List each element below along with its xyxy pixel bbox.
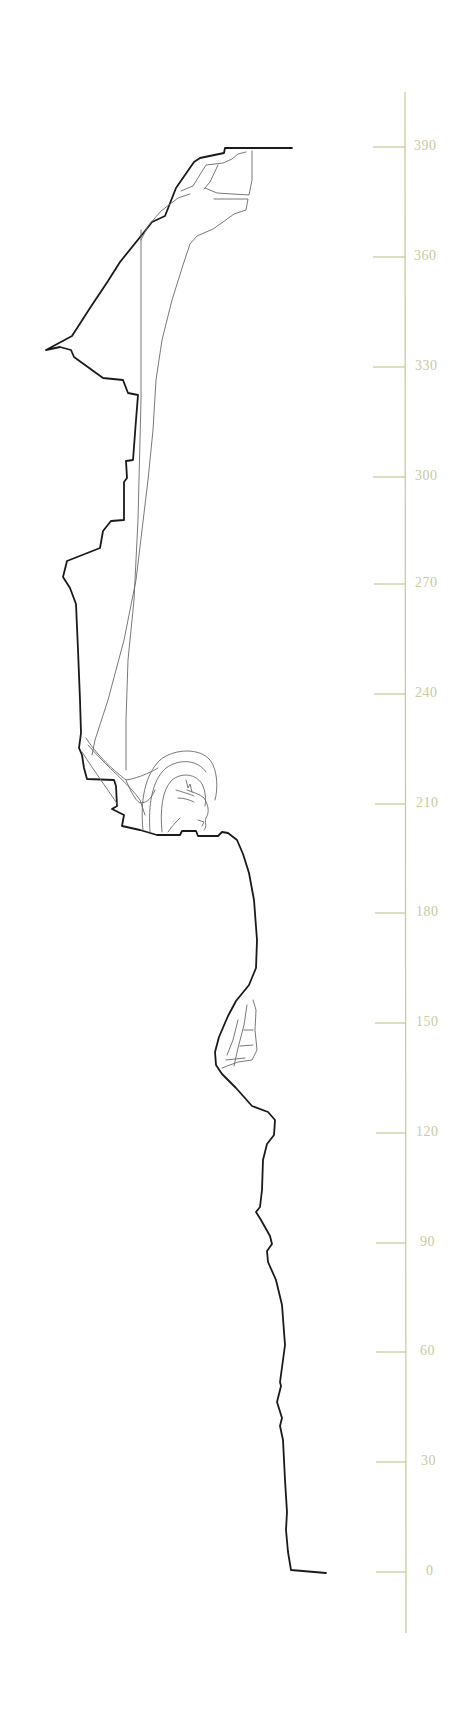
- scale-label-210: 210: [416, 795, 439, 811]
- scale-label-60: 60: [420, 1343, 435, 1359]
- scale-label-150: 150: [416, 1014, 439, 1030]
- scale-label-180: 180: [416, 904, 439, 920]
- lower-drapery: [222, 1000, 257, 1068]
- vertical-scale: [373, 92, 406, 1633]
- scale-label-0: 0: [426, 1563, 434, 1579]
- scale-axis: [405, 92, 406, 1633]
- scale-label-90: 90: [420, 1234, 435, 1250]
- scale-label-270: 270: [415, 575, 438, 591]
- profile-drawing: [0, 0, 470, 1715]
- scale-label-30: 30: [421, 1453, 436, 1469]
- scale-label-330: 330: [415, 358, 438, 374]
- sculpted-head: [142, 751, 217, 832]
- scale-label-120: 120: [416, 1124, 439, 1140]
- scale-label-360: 360: [414, 248, 437, 264]
- scale-label-390: 390: [414, 138, 437, 154]
- scale-label-300: 300: [415, 468, 438, 484]
- cornice-details: [92, 151, 252, 770]
- stone-profile-outline: [46, 148, 326, 1573]
- scale-label-240: 240: [415, 685, 438, 701]
